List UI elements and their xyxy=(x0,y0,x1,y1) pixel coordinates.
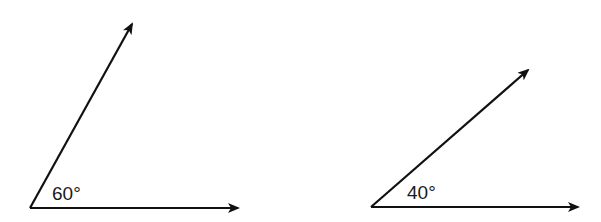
angle-40: 40° xyxy=(371,70,578,207)
angles-diagram: 60° 40° xyxy=(0,0,601,222)
angle-60: 60° xyxy=(30,24,238,208)
upper-ray xyxy=(371,70,528,207)
angle-label: 40° xyxy=(407,182,436,203)
upper-ray xyxy=(30,24,132,208)
angle-label: 60° xyxy=(52,183,81,204)
